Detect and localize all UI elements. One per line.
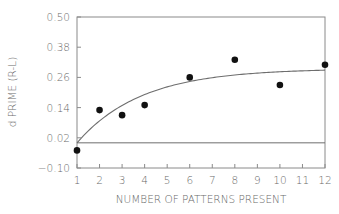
- x-tick-label: 4: [141, 174, 148, 186]
- chart: 123456789101112 −0.100.020.140.260.380.5…: [0, 0, 339, 214]
- data-point: [96, 107, 103, 114]
- y-tick-label: −0.10: [38, 162, 70, 174]
- plot-frame: [77, 17, 325, 168]
- data-point: [186, 74, 193, 81]
- data-point: [232, 56, 239, 63]
- x-tick-label: 2: [96, 174, 103, 186]
- x-tick-label: 5: [164, 174, 171, 186]
- x-tick-label: 11: [296, 174, 309, 186]
- y-axis-title: d PRIME (R-L): [6, 57, 18, 127]
- data-point: [141, 102, 148, 109]
- data-point: [277, 82, 284, 89]
- y-tick-label: 0.26: [47, 71, 70, 83]
- x-axis-title: NUMBER OF PATTERNS PRESENT: [116, 193, 287, 205]
- y-tick-label: 0.38: [47, 41, 70, 53]
- x-tick-label: 12: [318, 174, 331, 186]
- x-tick-label: 10: [273, 174, 286, 186]
- data-point: [119, 112, 126, 119]
- axes: [77, 17, 325, 168]
- data-point: [322, 62, 329, 69]
- x-tick-label: 1: [74, 174, 81, 186]
- x-tick-label: 9: [254, 174, 261, 186]
- fitted-curve: [77, 70, 325, 143]
- x-axis-ticks: 123456789101112: [74, 164, 332, 186]
- fitted-curve-group: [77, 70, 325, 143]
- x-tick-label: 3: [119, 174, 126, 186]
- x-tick-label: 8: [231, 174, 238, 186]
- y-tick-label: 0.02: [47, 132, 70, 144]
- y-tick-label: 0.50: [47, 11, 70, 23]
- x-tick-label: 6: [186, 174, 193, 186]
- x-tick-label: 7: [209, 174, 216, 186]
- y-tick-label: 0.14: [47, 102, 70, 114]
- data-point: [74, 147, 81, 154]
